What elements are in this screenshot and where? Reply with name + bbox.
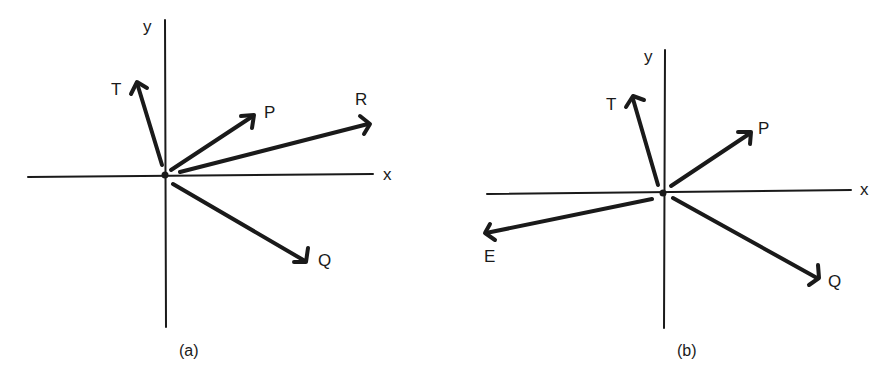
panel-a-vector-Q-label: Q xyxy=(318,252,331,269)
panel-b-vector-T-label: T xyxy=(606,96,616,113)
panel-a-x-axis-label: x xyxy=(383,166,392,183)
panel-a-vector-P-label: P xyxy=(264,104,275,121)
panel-a-x-axis xyxy=(28,174,373,177)
panel-b-graphics xyxy=(485,50,851,328)
panel-a-graphics xyxy=(28,20,373,327)
panel-b-vector-T xyxy=(626,96,658,185)
panel-b-x-axis-label: x xyxy=(860,181,869,198)
panel-b-vector-E-label: E xyxy=(484,248,495,265)
panel-a-caption: (a) xyxy=(179,343,199,359)
panel-a-vector-R-label: R xyxy=(355,91,367,108)
panel-b-vector-Q-label: Q xyxy=(828,273,841,290)
panel-a-y-axis-label: y xyxy=(143,18,152,35)
panel-a-origin-dot xyxy=(162,172,169,179)
panel-b-y-axis xyxy=(664,50,665,328)
panel-b-vector-Q xyxy=(673,198,819,285)
panel-b-x-axis xyxy=(487,190,851,194)
panel-b-vector-P xyxy=(671,132,751,186)
panel-b-vector-P-label: P xyxy=(758,120,769,137)
panel-b-y-axis-label: y xyxy=(644,48,653,65)
panel-b-caption: (b) xyxy=(677,343,697,359)
panel-b-origin-dot xyxy=(660,190,667,197)
panel-a-vector-T-label: T xyxy=(111,81,121,98)
panel-b-vector-E xyxy=(485,199,652,240)
panel-a-vector-T xyxy=(131,82,162,165)
vector-diagrams xyxy=(0,0,889,384)
panel-a-vector-Q xyxy=(173,184,308,262)
